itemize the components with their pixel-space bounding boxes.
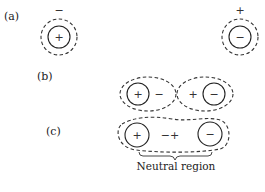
right-pair-inner-sign: − [209, 88, 218, 101]
left-pair-inner-sign: + [133, 88, 142, 101]
left-atom-inner-sign: + [54, 31, 63, 44]
right-pair-outer-sign: + [188, 88, 197, 101]
right-isolated-atom: + − [222, 4, 258, 56]
polarization-diagram: (a) − + + − (b) + − + − [0, 0, 265, 192]
left-polarized-atom: + − [120, 77, 176, 111]
right-atom-outer-sign: + [235, 4, 244, 17]
panel-c-label: (c) [46, 125, 61, 138]
panel-b-label: (b) [37, 70, 53, 83]
right-polarized-atom: + − [177, 77, 233, 111]
neutral-region-brace [139, 152, 212, 160]
middle-signs: −+ [161, 129, 179, 142]
right-atom-inner-sign: − [235, 31, 244, 44]
panel-b: (b) + − + − [37, 70, 233, 111]
panel-a: (a) − + + − [4, 4, 258, 56]
right-nucleus-sign: − [205, 128, 214, 141]
neutral-region-caption: Neutral region [137, 160, 216, 172]
left-atom-outer-sign: − [54, 4, 63, 17]
left-isolated-atom: − + [41, 4, 77, 56]
left-pair-electron-cloud [120, 77, 176, 111]
panel-c: (c) + −+ − Neutral region [46, 117, 229, 172]
left-nucleus-sign: + [132, 129, 141, 142]
left-pair-outer-sign: − [154, 88, 163, 101]
panel-a-label: (a) [4, 10, 19, 23]
